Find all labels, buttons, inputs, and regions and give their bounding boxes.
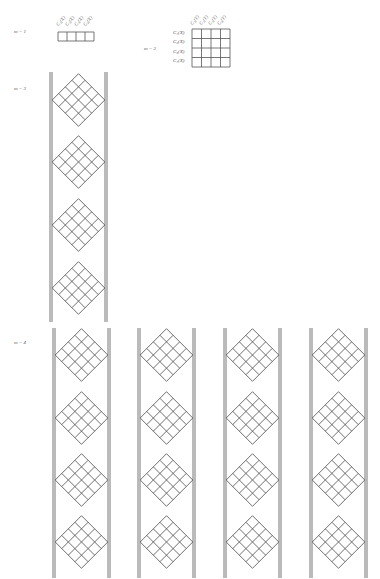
m4-column-4-diamond-4 xyxy=(312,516,365,569)
m3-column-diamond-2 xyxy=(52,136,105,189)
m4-column-2-diamond-4 xyxy=(140,516,193,569)
m3-column-diamond-4 xyxy=(52,262,105,315)
m4-column-4-diamond-2 xyxy=(312,392,365,445)
m2-table xyxy=(192,29,230,67)
m4-column-1-diamond-1 xyxy=(55,329,108,382)
m3-column-diamond-1 xyxy=(52,74,105,127)
m4-column-2-diamond-3 xyxy=(140,454,193,507)
m4-column-1-diamond-3 xyxy=(55,454,108,507)
m4-column-3-diamond-2 xyxy=(226,392,279,445)
figure-canvas xyxy=(0,0,380,579)
m4-column-4-diamond-1 xyxy=(312,329,365,382)
m4-column-1-diamond-4 xyxy=(55,516,108,569)
m4-column-1-diamond-2 xyxy=(55,392,108,445)
m4-column-2-diamond-1 xyxy=(140,329,193,382)
m1-table xyxy=(58,32,94,41)
m4-column-4-diamond-3 xyxy=(312,454,365,507)
m3-column-diamond-3 xyxy=(52,199,105,252)
m4-column-3-diamond-3 xyxy=(226,454,279,507)
m4-column-3-diamond-1 xyxy=(226,329,279,382)
m4-column-2-diamond-2 xyxy=(140,392,193,445)
m4-column-3-diamond-4 xyxy=(226,516,279,569)
